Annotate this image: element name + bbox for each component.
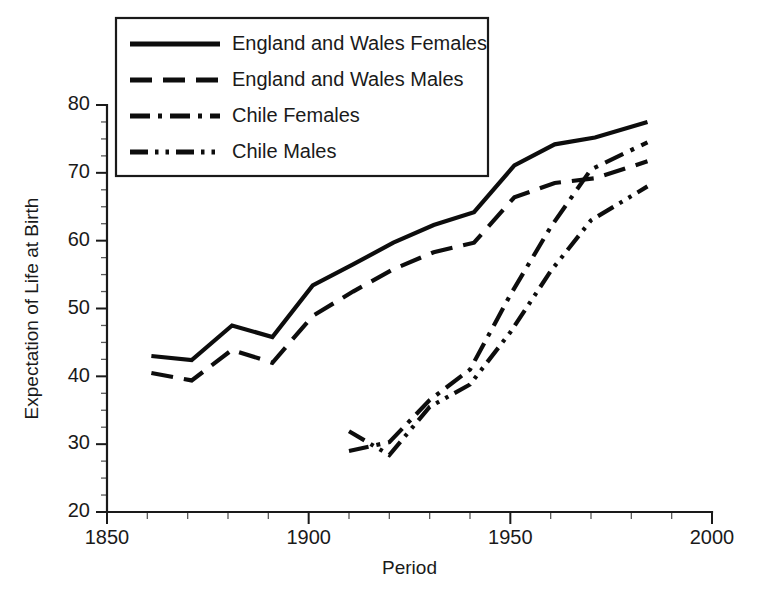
y-tick-label: 80 <box>68 92 90 114</box>
y-tick-label: 50 <box>68 296 90 318</box>
y-tick-label: 30 <box>68 431 90 453</box>
legend-label-1: England and Wales Males <box>232 68 464 90</box>
series-line-1 <box>151 161 647 380</box>
legend-label-0: England and Wales Females <box>232 32 487 54</box>
y-axis-major-ticks <box>96 105 107 512</box>
x-tick-label: 1950 <box>488 526 533 548</box>
y-axis-title: Expectation of Life at Birth <box>21 198 42 420</box>
legend-label-2: Chile Females <box>232 104 360 126</box>
y-tick-label: 70 <box>68 160 90 182</box>
chart-legend: England and Wales FemalesEngland and Wal… <box>116 18 488 176</box>
y-tick-label: 20 <box>68 499 90 521</box>
x-axis-title: Period <box>382 557 437 578</box>
series-line-2 <box>349 142 647 451</box>
legend-label-3: Chile Males <box>232 140 336 162</box>
line-chart: 20304050607080 1850190019502000 Expectat… <box>0 0 769 599</box>
x-axis-tick-labels: 1850190019502000 <box>85 526 735 548</box>
x-axis-major-ticks <box>107 512 712 524</box>
x-tick-label: 1850 <box>85 526 130 548</box>
y-tick-label: 60 <box>68 228 90 250</box>
y-axis-tick-labels: 20304050607080 <box>68 92 90 521</box>
y-tick-label: 40 <box>68 364 90 386</box>
chart-figure: 20304050607080 1850190019502000 Expectat… <box>0 0 769 599</box>
x-tick-label: 1900 <box>286 526 331 548</box>
x-tick-label: 2000 <box>690 526 735 548</box>
